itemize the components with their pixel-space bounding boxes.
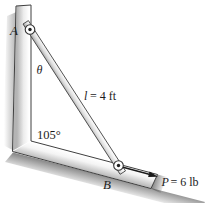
statics-diagram: A θ l = 4 ft 105° B P = 6 lb bbox=[0, 0, 208, 203]
label-force-var: P bbox=[161, 175, 170, 189]
pin-b bbox=[114, 161, 124, 171]
label-force-value: = 6 lb bbox=[171, 175, 199, 189]
label-point-b: B bbox=[103, 177, 111, 192]
label-point-a: A bbox=[9, 23, 18, 38]
diagram-canvas: A θ l = 4 ft 105° B P = 6 lb bbox=[0, 0, 208, 203]
pin-a bbox=[25, 25, 35, 35]
label-length-value: = 4 ft bbox=[90, 89, 117, 103]
label-length-var: l bbox=[84, 89, 88, 103]
label-theta: θ bbox=[37, 63, 43, 77]
label-corner-angle: 105° bbox=[37, 128, 61, 142]
